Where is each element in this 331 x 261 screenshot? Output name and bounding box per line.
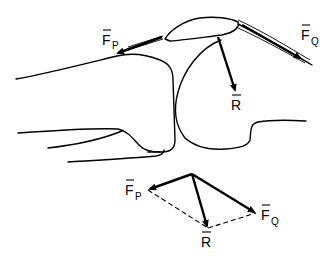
- left-bone-top-contour: [16, 54, 175, 152]
- label-force-quadriceps: F Q: [301, 25, 319, 47]
- force-quadriceps-arrow: [242, 25, 300, 58]
- force-patellar-arrow: [118, 37, 162, 53]
- svg-text:R: R: [231, 97, 241, 113]
- svg-text:F: F: [102, 32, 111, 48]
- svg-text:P: P: [112, 40, 119, 51]
- vector-label-fq: F Q: [261, 205, 279, 227]
- svg-text:Q: Q: [271, 216, 279, 227]
- left-bone-lower-contour: [18, 129, 160, 152]
- knee-force-diagram: F P F Q R F P F Q R: [0, 0, 331, 261]
- left-bone-inner-line: [48, 131, 122, 148]
- svg-text:P: P: [135, 191, 142, 202]
- anatomy: F P F Q R: [16, 17, 319, 162]
- svg-text:Q: Q: [311, 36, 319, 47]
- vector-label-r: R: [201, 232, 211, 250]
- dashed-r-to-fq: [208, 213, 256, 228]
- vector-label-fp: F P: [125, 180, 142, 202]
- label-resultant: R: [231, 95, 241, 113]
- vector-fp: [150, 174, 192, 189]
- patella: [165, 17, 238, 41]
- label-force-patellar: F P: [102, 30, 119, 51]
- svg-text:F: F: [261, 207, 270, 223]
- vector-parallelogram: F P F Q R: [125, 174, 279, 250]
- svg-text:F: F: [301, 27, 310, 43]
- resultant-arrow: [218, 37, 235, 90]
- svg-text:F: F: [125, 182, 134, 198]
- svg-text:R: R: [201, 234, 211, 250]
